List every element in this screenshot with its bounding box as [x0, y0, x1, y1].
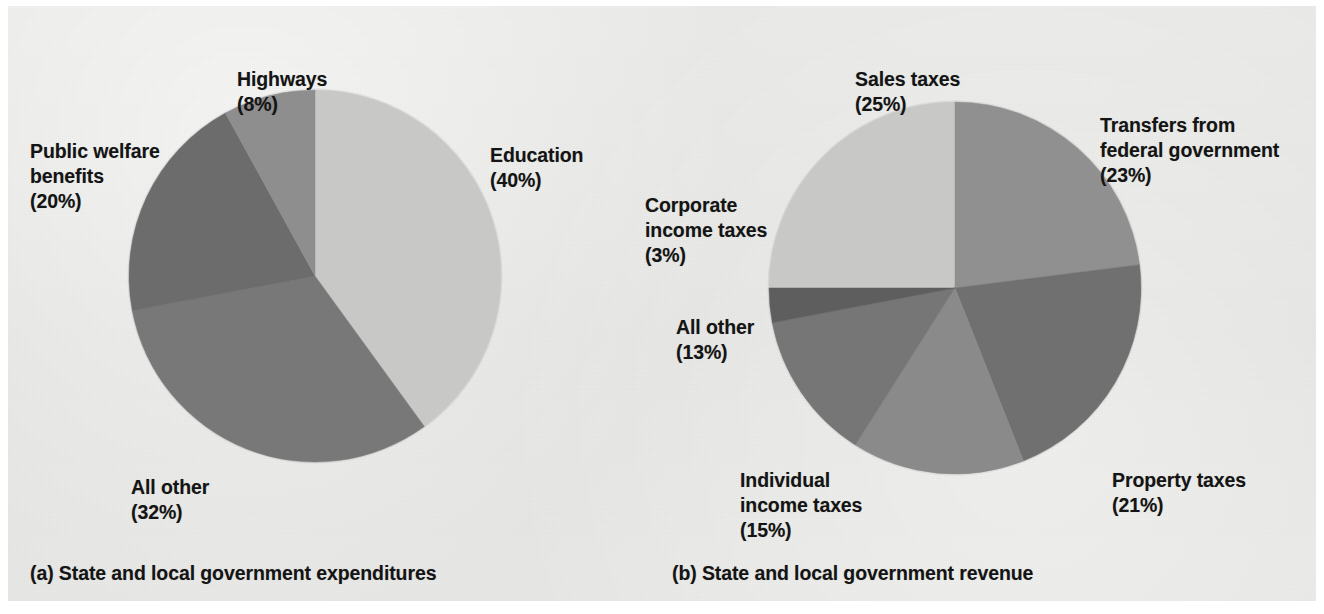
- label-all-other-b: All other (13%): [676, 290, 754, 390]
- caption-a: (a) State and local government expenditu…: [30, 562, 436, 585]
- label-property-taxes: Property taxes (21%): [1112, 443, 1246, 543]
- figure-root: Highways (8%) Public welfare benefits (2…: [0, 0, 1324, 614]
- label-education-pct: (40%): [490, 168, 583, 193]
- label-highways: Highways (8%): [237, 42, 327, 142]
- label-sales-taxes-pct: (25%): [855, 92, 960, 117]
- pie-chart-a: [0, 0, 662, 614]
- label-highways-pct: (8%): [237, 92, 327, 117]
- label-public-welfare-benefits-name: Public welfare benefits: [30, 140, 160, 187]
- label-all-other-a-pct: (32%): [131, 500, 209, 525]
- label-corporate-income-taxes: Corporate income taxes (3%): [645, 168, 767, 293]
- label-individual-income-taxes-pct: (15%): [740, 518, 862, 543]
- label-individual-income-taxes-name: Individual income taxes: [740, 469, 862, 516]
- label-sales-taxes-name: Sales taxes: [855, 68, 960, 90]
- caption-b: (b) State and local government revenue: [672, 562, 1033, 585]
- label-property-taxes-pct: (21%): [1112, 493, 1246, 518]
- label-all-other-a-name: All other: [131, 476, 209, 498]
- label-education-name: Education: [490, 144, 583, 166]
- label-corporate-income-taxes-name: Corporate income taxes: [645, 194, 767, 241]
- label-all-other-b-name: All other: [676, 316, 754, 338]
- label-transfers-name: Transfers from federal government: [1100, 114, 1279, 161]
- label-all-other-a: All other (32%): [131, 450, 209, 550]
- label-highways-name: Highways: [237, 68, 327, 90]
- label-public-welfare-benefits-pct: (20%): [30, 189, 160, 214]
- label-public-welfare-benefits: Public welfare benefits (20%): [30, 114, 160, 239]
- label-individual-income-taxes: Individual income taxes (15%): [740, 443, 862, 568]
- label-property-taxes-name: Property taxes: [1112, 469, 1246, 491]
- label-transfers-from-federal-government: Transfers from federal government (23%): [1100, 88, 1279, 213]
- label-sales-taxes: Sales taxes (25%): [855, 42, 960, 142]
- label-transfers-pct: (23%): [1100, 163, 1279, 188]
- label-education: Education (40%): [490, 118, 583, 218]
- label-corporate-income-taxes-pct: (3%): [645, 243, 767, 268]
- label-all-other-b-pct: (13%): [676, 340, 754, 365]
- pie-a-svg: [0, 0, 662, 614]
